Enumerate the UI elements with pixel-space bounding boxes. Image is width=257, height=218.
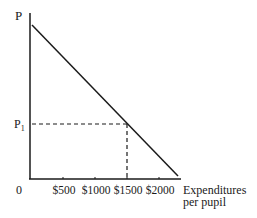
- p1-label: P1: [14, 118, 25, 135]
- p1-label-main: P: [14, 117, 21, 131]
- p1-label-sub: 1: [21, 124, 25, 133]
- tick-label-1000: $1000: [82, 184, 111, 196]
- demand-line: [32, 25, 178, 176]
- y-axis-label: P: [15, 10, 22, 22]
- tick-label-2000: $2000: [146, 184, 175, 196]
- origin-label: 0: [16, 184, 22, 196]
- tick-label-1500: $1500: [114, 184, 143, 196]
- x-axis-label-line2: per pupil: [183, 196, 226, 208]
- tick-label-500: $500: [53, 184, 76, 196]
